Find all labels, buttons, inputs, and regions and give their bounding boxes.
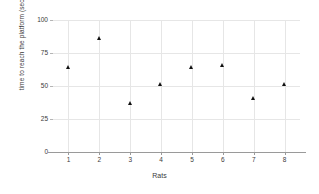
x-tick-label: 4: [151, 156, 171, 163]
gridline-vertical: [254, 20, 255, 152]
gridline-vertical: [68, 20, 69, 152]
x-tick-mark: [68, 152, 69, 155]
data-point-marker: [128, 101, 132, 105]
data-point-marker: [282, 82, 286, 86]
x-tick-mark: [285, 152, 286, 155]
gridline-horizontal: [53, 119, 300, 120]
y-tick-label: 100: [30, 16, 48, 23]
x-tick-mark: [161, 152, 162, 155]
x-tick-label: 3: [120, 156, 140, 163]
gridline-horizontal: [53, 86, 300, 87]
data-point-marker: [220, 63, 224, 67]
x-tick-label: 2: [89, 156, 109, 163]
data-point-marker: [66, 65, 70, 69]
gridline-vertical: [192, 20, 193, 152]
gridline-vertical: [223, 20, 224, 152]
data-point-marker: [251, 96, 255, 100]
y-tick-label: 0: [30, 148, 48, 155]
x-axis-line: [48, 152, 306, 153]
x-tick-mark: [223, 152, 224, 155]
x-tick-label: 8: [275, 156, 295, 163]
x-tick-mark: [254, 152, 255, 155]
gridline-vertical: [130, 20, 131, 152]
data-point-marker: [158, 82, 162, 86]
plot-area: [53, 20, 300, 152]
x-tick-mark: [130, 152, 131, 155]
gridline-horizontal: [53, 20, 300, 21]
y-tick-label: 50: [30, 82, 48, 89]
x-tick-label: 5: [182, 156, 202, 163]
x-tick-label: 1: [58, 156, 78, 163]
scatter-chart: time to reach the platform (seconds) Rat…: [0, 0, 319, 194]
x-tick-mark: [99, 152, 100, 155]
y-axis-title: time to reach the platform (seconds): [18, 0, 25, 107]
x-axis-title: Rats: [0, 172, 319, 179]
gridline-horizontal: [53, 53, 300, 54]
x-tick-mark: [192, 152, 193, 155]
x-tick-label: 6: [213, 156, 233, 163]
x-tick-label: 7: [244, 156, 264, 163]
y-tick-label: 25: [30, 115, 48, 122]
y-tick-label: 75: [30, 49, 48, 56]
data-point-marker: [189, 65, 193, 69]
data-point-marker: [97, 36, 101, 40]
